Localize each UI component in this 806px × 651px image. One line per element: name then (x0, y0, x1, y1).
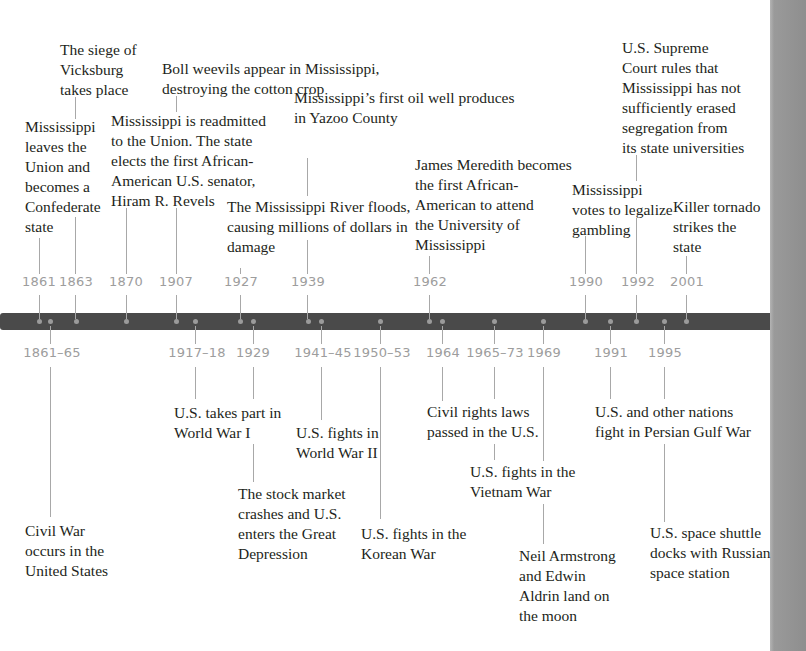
event-1861-65: Civil War occurs in the United States (25, 521, 108, 581)
connector-line (686, 295, 687, 319)
timeline-dot (251, 319, 256, 324)
year-label-1863: 1863 (59, 274, 93, 289)
connector-line (195, 326, 196, 344)
connector-line (307, 295, 308, 319)
event-1991: U.S. and other nations fight in Persian … (595, 402, 751, 442)
connector-line (39, 238, 40, 274)
connector-line (307, 158, 308, 196)
connector-line (75, 217, 76, 274)
connector-line (636, 295, 637, 319)
connector-line (442, 367, 443, 401)
timeline-dot (319, 319, 324, 324)
connector-line (126, 208, 127, 274)
event-1917-18: U.S. takes part in World War I (174, 403, 281, 443)
year-label-1941-45: 1941–45 (294, 345, 352, 360)
connector-line (494, 444, 495, 460)
connector-line (253, 444, 254, 482)
event-1927: The Mississippi River floods, causing mi… (227, 197, 410, 257)
timeline-dot (583, 319, 588, 324)
event-1965-73: U.S. fights in the Vietnam War (470, 462, 576, 502)
event-1929: The stock market crashes and U.S. enters… (238, 484, 346, 564)
year-label-1969: 1969 (527, 345, 561, 360)
connector-line (240, 295, 241, 319)
page-edge-strip (770, 0, 806, 651)
year-label-1870: 1870 (109, 274, 143, 289)
event-1969: Neil Armstrong and Edwin Aldrin land on … (519, 546, 616, 626)
event-1950-53: U.S. fights in the Korean War (361, 524, 467, 564)
connector-line (126, 295, 127, 319)
connector-line (585, 295, 586, 319)
connector-line (253, 326, 254, 344)
connector-line (429, 256, 430, 274)
timeline-dot (37, 319, 42, 324)
connector-line (686, 256, 687, 274)
timeline-dot (48, 319, 53, 324)
event-1962: James Meredith becomes the first African… (415, 155, 572, 255)
connector-line (585, 236, 586, 274)
year-label-1861-65: 1861–65 (23, 345, 81, 360)
timeline-dot (378, 319, 383, 324)
timeline-dot (634, 319, 639, 324)
year-label-1991: 1991 (594, 345, 628, 360)
connector-line (307, 240, 308, 274)
year-label-1965-73: 1965–73 (466, 345, 524, 360)
timeline-dot (440, 319, 445, 324)
connector-line (664, 326, 665, 344)
connector-line (494, 326, 495, 344)
connector-line (195, 367, 196, 399)
year-label-1861: 1861 (22, 274, 56, 289)
connector-line (39, 295, 40, 319)
timeline-dot (492, 319, 497, 324)
event-1990: Mississippi votes to legalize gambling (572, 180, 673, 240)
event-1964: Civil rights laws passed in the U.S. (427, 402, 539, 442)
year-label-1939: 1939 (291, 274, 325, 289)
year-label-1990: 1990 (569, 274, 603, 289)
event-1863: The siege of Vicksburg takes place (60, 40, 137, 100)
connector-line (321, 326, 322, 344)
timeline-dot (541, 319, 546, 324)
year-label-1995: 1995 (648, 345, 682, 360)
connector-line (610, 326, 611, 344)
timeline-dot (306, 319, 311, 324)
timeline-dot (608, 319, 613, 324)
connector-line (50, 326, 51, 344)
year-label-1917-18: 1917–18 (168, 345, 226, 360)
connector-line (176, 208, 177, 274)
connector-line (429, 295, 430, 319)
connector-line (543, 367, 544, 461)
connector-line (380, 326, 381, 344)
connector-line (380, 367, 381, 519)
timeline-dot (238, 319, 243, 324)
event-1939: Mississippi’s first oil well produces in… (294, 88, 514, 128)
timeline-dot (124, 319, 129, 324)
timeline-dot (684, 319, 689, 324)
connector-line (321, 367, 322, 420)
year-label-1929: 1929 (236, 345, 270, 360)
timeline-bar (0, 313, 770, 330)
event-1861: Mississippi leaves the Union and becomes… (25, 117, 101, 237)
timeline-dot (662, 319, 667, 324)
connector-line (636, 155, 637, 181)
connector-line (176, 295, 177, 319)
year-label-1964: 1964 (426, 345, 460, 360)
year-label-1992: 1992 (621, 274, 655, 289)
connector-line (664, 367, 665, 399)
connector-line (253, 367, 254, 399)
event-1870: Mississippi is readmitted to the Union. … (111, 111, 266, 211)
year-label-1927: 1927 (224, 274, 258, 289)
connector-line (442, 326, 443, 344)
event-1992: U.S. Supreme Court rules that Mississipp… (622, 38, 744, 158)
connector-line (664, 444, 665, 522)
connector-line (543, 326, 544, 344)
year-label-2001: 2001 (670, 274, 704, 289)
timeline-dot (427, 319, 432, 324)
connector-line (610, 367, 611, 399)
timeline-dot (74, 319, 79, 324)
connector-line (75, 97, 76, 119)
event-2001: Killer tornado strikes the state (673, 197, 760, 257)
year-label-1907: 1907 (159, 274, 193, 289)
year-label-1962: 1962 (413, 274, 447, 289)
event-1941-45: U.S. fights in World War II (296, 423, 379, 463)
timeline-dot (193, 319, 198, 324)
connector-line (543, 504, 544, 544)
